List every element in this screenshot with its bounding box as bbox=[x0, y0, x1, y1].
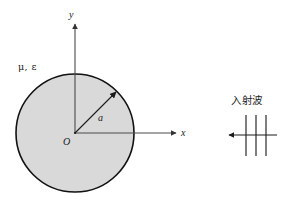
incident-wave-label: 入射波 bbox=[231, 95, 263, 106]
radius-label: a bbox=[98, 113, 103, 123]
origin-point bbox=[74, 132, 76, 134]
y-axis-label: y bbox=[69, 10, 73, 20]
x-axis-label: x bbox=[181, 128, 185, 138]
material-parameters-label: μ, ε bbox=[18, 62, 37, 72]
figure-canvas: y x O a μ, ε 入射波 bbox=[0, 0, 286, 208]
origin-label: O bbox=[63, 137, 70, 147]
